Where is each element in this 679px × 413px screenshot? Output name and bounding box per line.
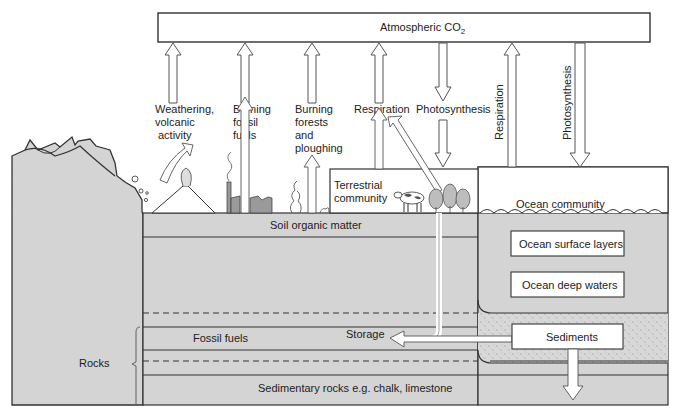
svg-text:Weathering,: Weathering, [155, 103, 214, 115]
rocks-label: Rocks [79, 357, 110, 369]
ocean-surface-label: Ocean surface layers [519, 238, 623, 250]
svg-text:Burning: Burning [295, 103, 333, 115]
svg-text:Photosynthesis: Photosynthesis [416, 103, 491, 115]
burning-forests-up-arrow [304, 43, 320, 103]
svg-text:and: and [295, 129, 313, 141]
svg-text:Photosynthesis: Photosynthesis [561, 65, 573, 140]
carbon-cycle-diagram: Atmospheric CO2 Weathering, volcanic act… [0, 0, 679, 413]
burning-forest-up-arrow [304, 155, 320, 213]
volcano [152, 143, 215, 213]
soil-organic-matter-label: Soil organic matter [270, 219, 362, 231]
land-ground [143, 213, 478, 405]
terrestrial-label-line2: community [334, 192, 388, 204]
svg-text:Respiration: Respiration [493, 84, 505, 140]
sediments-label: Sediments [546, 331, 598, 343]
ocean-deep-label: Ocean deep waters [522, 279, 618, 291]
svg-text:forests: forests [295, 116, 329, 128]
storage-label: Storage [346, 328, 385, 340]
fossil-fuels-label: Fossil fuels [193, 332, 249, 344]
svg-text:volcanic: volcanic [155, 116, 195, 128]
sedimentary-rocks-label: Sedimentary rocks e.g. chalk, limestone [258, 382, 452, 394]
svg-text:activity: activity [158, 129, 192, 141]
burning-fossil-up-arrow [237, 43, 253, 103]
burning-forest [290, 155, 329, 213]
svg-text:ploughing: ploughing [295, 142, 343, 154]
photosynthesis-land-down-arrow [435, 120, 451, 167]
respiration-ocean-up-arrow [504, 43, 520, 167]
ocean-community-label: Ocean community [516, 198, 605, 210]
weathering-up-arrow [165, 43, 181, 103]
respiration-land-up-arrow [371, 43, 387, 103]
photosynthesis-land-down-arrow-top [435, 43, 451, 101]
photosynthesis-ocean-down-arrow [570, 43, 590, 167]
respiration-land-arrow-lower [371, 108, 387, 169]
terrestrial-label-line1: Terrestrial [334, 179, 382, 191]
